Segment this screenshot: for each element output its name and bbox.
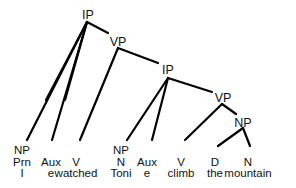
tree-node-ip1: IP xyxy=(82,9,94,21)
leaf-word: e xyxy=(144,167,150,179)
leaf-category: NP xyxy=(14,144,30,156)
tree-node-np: NP xyxy=(234,117,251,129)
tree-node-ip2: IP xyxy=(162,64,174,76)
leaf-word: Toni xyxy=(110,167,131,179)
leaf-word: I xyxy=(20,167,23,179)
leaf-category: Prn xyxy=(13,156,31,168)
leaf-category: N xyxy=(244,156,252,168)
leaf-word: mountain xyxy=(224,167,271,179)
leaf-category: D xyxy=(211,156,219,168)
leaf-category: Aux xyxy=(41,156,61,168)
leaf-category: V xyxy=(177,156,185,168)
leaf-word: e xyxy=(48,167,54,179)
leaf-word: the xyxy=(207,167,223,179)
leaf-word: climb xyxy=(168,167,195,179)
leaf-category: Aux xyxy=(137,156,157,168)
leaf-category: N xyxy=(117,156,125,168)
leaf-word: watched xyxy=(55,167,98,179)
tree-node-vp1: VP xyxy=(110,36,127,48)
leaf-category: V xyxy=(72,156,80,168)
leaf-category: NP xyxy=(113,144,129,156)
tree-node-vp2: VP xyxy=(215,92,232,104)
